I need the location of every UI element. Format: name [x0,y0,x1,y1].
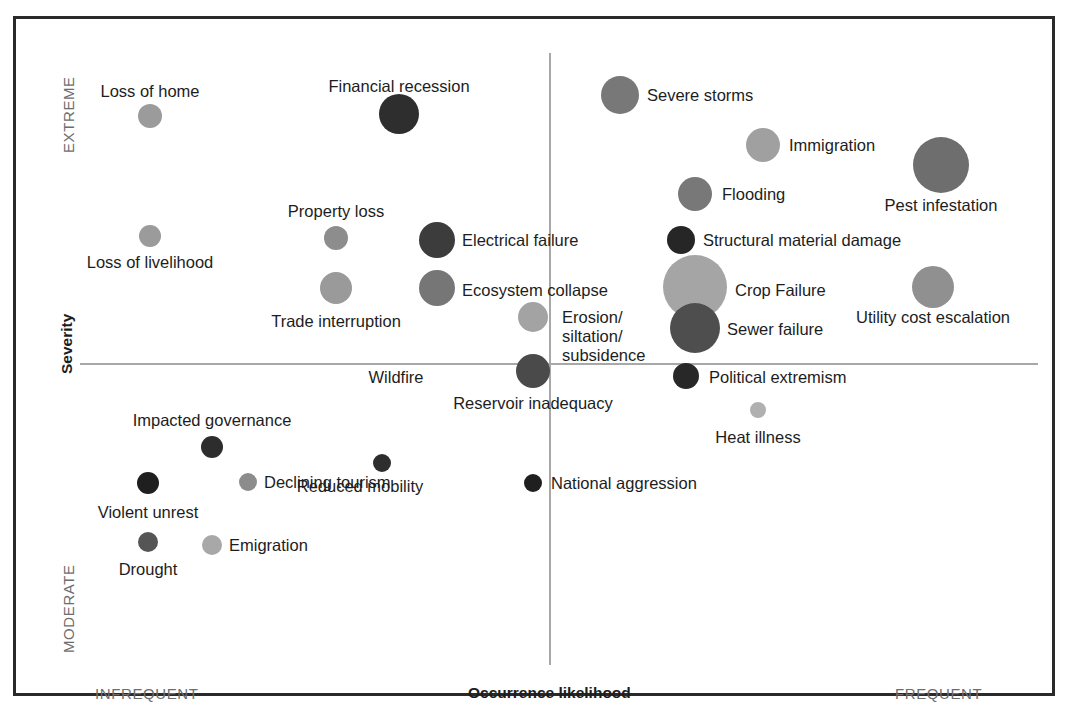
bubble-label: Wildfire [368,368,423,387]
bubble-label: Reservoir inadequacy [453,394,613,413]
bubble-marker [324,226,348,250]
bubble-marker [678,177,712,211]
bubble-label: Erosion/ siltation/ subsidence [562,308,645,365]
bubble-marker [202,535,222,555]
bubble-label: Property loss [288,202,384,221]
bubble-label: Ecosystem collapse [462,281,608,300]
bubble-label: National aggression [551,474,697,493]
bubble-marker [419,270,455,306]
y-axis-caption-low: MODERATE [60,564,77,653]
bubble-marker [239,473,257,491]
bubble-marker [201,436,223,458]
x-axis-caption-low: INFREQUENT [95,685,199,702]
bubble-marker [746,128,780,162]
vertical-axis-line [549,53,551,665]
risk-matrix-figure: Loss of homeFinancial recessionSevere st… [0,0,1072,711]
y-axis-title: Severity [58,314,76,374]
x-axis-caption-high: FREQUENT [895,685,982,702]
horizontal-axis-line [80,363,1038,365]
bubble-marker [373,454,391,472]
bubble-marker [139,225,161,247]
bubble-label: Reduced mobility [297,477,424,496]
bubble-marker [320,272,352,304]
bubble-marker [138,104,162,128]
bubble-label: Heat illness [715,428,800,447]
bubble-label: Violent unrest [98,503,199,522]
bubble-label: Utility cost escalation [856,308,1010,327]
bubble-label: Crop Failure [735,281,826,300]
bubble-label: Emigration [229,536,308,555]
bubble-marker [524,474,542,492]
bubble-label: Pest infestation [885,196,998,215]
bubble-marker [516,354,550,388]
plot-frame: Loss of homeFinancial recessionSevere st… [13,16,1055,696]
y-axis-caption-high: EXTREME [60,76,77,153]
bubble-marker [750,402,766,418]
bubble-marker [419,222,455,258]
bubble-label: Sewer failure [727,320,823,339]
bubble-marker [138,532,158,552]
bubble-label: Loss of home [100,82,199,101]
bubble-label: Financial recession [328,77,469,96]
bubble-marker [673,363,699,389]
bubble-label: Electrical failure [462,231,578,250]
bubble-label: Severe storms [647,86,753,105]
bubble-marker [518,302,548,332]
bubble-marker [667,226,695,254]
bubble-marker [670,303,720,353]
bubble-label: Flooding [722,185,785,204]
bubble-label: Structural material damage [703,231,901,250]
bubble-label: Political extremism [709,368,847,387]
bubble-marker [912,266,954,308]
bubble-label: Drought [119,560,178,579]
bubble-marker [137,472,159,494]
bubble-marker [379,94,419,134]
bubble-marker [601,76,639,114]
bubble-label: Immigration [789,136,875,155]
x-axis-title: Occurrence likelihood [468,684,631,702]
bubble-label: Loss of livelihood [87,253,214,272]
bubble-marker [913,137,969,193]
bubble-label: Impacted governance [133,411,292,430]
bubble-label: Trade interruption [271,312,401,331]
